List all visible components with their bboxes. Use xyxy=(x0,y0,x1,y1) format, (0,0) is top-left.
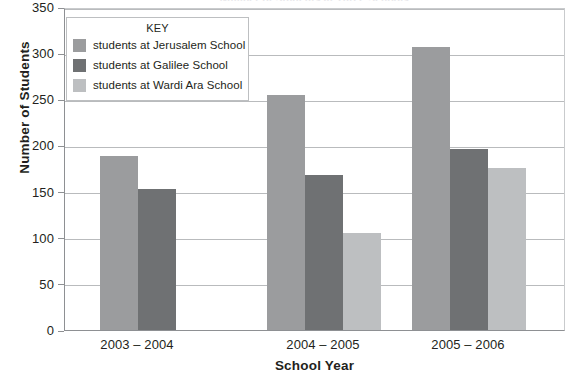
y-tick-label: 200 xyxy=(0,138,54,153)
bar xyxy=(412,47,450,330)
y-tick-label: 250 xyxy=(0,92,54,107)
y-tick-label: 350 xyxy=(0,0,54,15)
y-tick-mark xyxy=(58,100,64,101)
legend-entry: students at Galilee School xyxy=(73,55,242,75)
y-tick-mark xyxy=(58,192,64,193)
y-tick-label: 0 xyxy=(0,323,54,338)
legend-swatch xyxy=(73,79,86,92)
y-tick-mark xyxy=(58,238,64,239)
bar xyxy=(343,233,381,330)
chart-title: Number of Students at Three Schools xyxy=(64,0,565,1)
bar xyxy=(305,175,343,330)
x-category-label: 2003 – 2004 xyxy=(67,337,207,352)
legend-entry: students at Wardi Ara School xyxy=(73,75,242,95)
y-tick-mark xyxy=(58,54,64,55)
x-axis-title: School Year xyxy=(64,358,565,373)
legend-title: KEY xyxy=(73,22,242,34)
y-axis-title: Number of Students xyxy=(17,18,32,198)
bar xyxy=(267,95,305,330)
y-tick-mark xyxy=(58,146,64,147)
bar xyxy=(488,168,526,330)
x-axis-category-labels: 2003 – 20042004 – 20052005 – 2006 xyxy=(64,337,565,355)
x-category-label: 2004 – 2005 xyxy=(253,337,393,352)
y-tick-label: 300 xyxy=(0,46,54,61)
bar-chart: Number of Students at Three Schools Numb… xyxy=(0,0,577,379)
legend-entry-label: students at Wardi Ara School xyxy=(93,79,242,91)
legend-entry: students at Jerusalem School xyxy=(73,35,242,55)
y-tick-mark xyxy=(58,8,64,9)
legend-swatch xyxy=(73,59,86,72)
y-tick-mark xyxy=(58,284,64,285)
legend-entry-label: students at Galilee School xyxy=(93,59,228,71)
y-tick-label: 150 xyxy=(0,185,54,200)
bar xyxy=(138,189,176,330)
y-tick-label: 100 xyxy=(0,231,54,246)
y-tick-mark xyxy=(58,331,64,332)
legend: KEY students at Jerusalem Schoolstudents… xyxy=(66,17,249,101)
y-tick-label: 50 xyxy=(0,277,54,292)
legend-entries: students at Jerusalem Schoolstudents at … xyxy=(73,35,242,95)
legend-entry-label: students at Jerusalem School xyxy=(93,39,245,51)
bar xyxy=(100,156,138,330)
bar xyxy=(450,149,488,330)
legend-swatch xyxy=(73,39,86,52)
x-category-label: 2005 – 2006 xyxy=(398,337,538,352)
